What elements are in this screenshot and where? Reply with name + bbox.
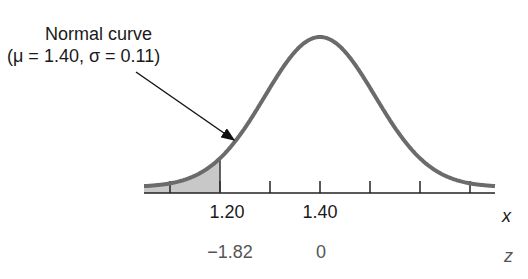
x-tick-label-1-40: 1.40 xyxy=(302,202,337,223)
z-tick-label-neg-1-82: −1.82 xyxy=(207,242,253,263)
shaded-tail-area xyxy=(144,158,220,193)
x-axis-label: x xyxy=(502,206,511,227)
z-tick-label-0: 0 xyxy=(316,242,326,263)
x-tick-label-1-20: 1.20 xyxy=(209,202,244,223)
chart-title: Normal curve xyxy=(45,24,152,45)
chart-parameters: (μ = 1.40, σ = 0.11) xyxy=(7,46,160,67)
z-axis-label: z xyxy=(504,246,513,267)
annotation-arrow xyxy=(136,72,234,140)
normal-curve xyxy=(144,37,495,186)
